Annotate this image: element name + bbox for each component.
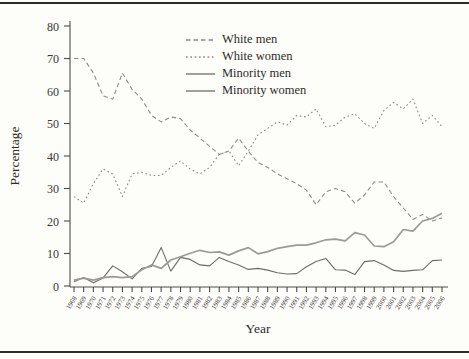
y-tick-label: 80 — [47, 20, 59, 34]
y-tick-label: 40 — [47, 150, 59, 164]
y-tick-label: 50 — [47, 117, 59, 131]
y-tick-label: 60 — [47, 85, 59, 99]
figure: 0102030405060708019681969197019711972197… — [0, 0, 469, 359]
x-axis-title: Year — [47, 321, 469, 337]
legend-line-sample-minority-women — [186, 88, 215, 94]
legend-item-minority-women: Minority women — [186, 82, 306, 99]
series-white-women — [74, 99, 442, 203]
y-tick-label: 30 — [47, 182, 59, 196]
y-tick-label: 20 — [47, 215, 59, 229]
legend-label-minority-men: Minority men — [222, 67, 291, 80]
x-tick-label: 2006 — [432, 294, 446, 311]
legend-label-white-men: White men — [222, 33, 277, 46]
legend-line-sample-minority-men — [186, 71, 215, 77]
legend-item-white-women: White women — [186, 48, 306, 65]
y-tick-label: 10 — [47, 247, 59, 261]
legend: White menWhite womenMinority menMinority… — [186, 31, 306, 99]
y-tick-label: 70 — [47, 52, 59, 66]
legend-item-minority-men: Minority men — [186, 65, 306, 82]
legend-label-white-women: White women — [222, 50, 292, 63]
y-axis-title: Percentage — [7, 126, 23, 185]
legend-line-sample-white-men — [186, 37, 215, 43]
legend-item-white-men: White men — [186, 31, 306, 48]
legend-label-minority-women: Minority women — [222, 84, 306, 97]
y-tick-label: 0 — [53, 280, 59, 294]
series-minority-women — [74, 213, 442, 280]
legend-line-sample-white-women — [186, 54, 215, 60]
